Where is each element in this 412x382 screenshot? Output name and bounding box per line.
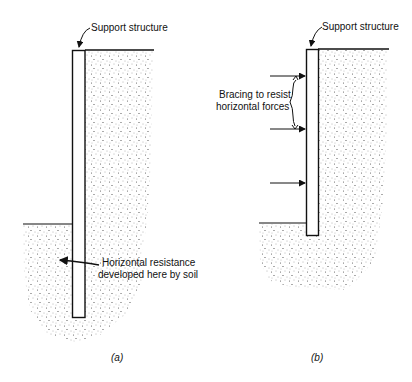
caption-b: (b) [311,352,323,363]
support-structure-label-a: Support structure [91,22,168,34]
brace-tip-top [293,76,298,80]
panel-b [259,27,389,290]
pile-a [73,51,86,318]
retained-soil-b [318,50,388,282]
diagram-canvas [0,0,412,382]
support-leader-b [311,27,322,46]
panel-a [23,28,154,342]
resistance-label-line1: Horizontal resistance [102,257,195,269]
resistance-label-line2: developed here by soil [98,269,198,281]
bracing-label-line2: horizontal forces [216,101,289,113]
support-structure-label-b: Support structure [322,21,399,33]
support-leader-a [79,28,90,47]
bracing-label-line1: Bracing to resist [219,89,291,101]
caption-a: (a) [111,352,123,363]
pile-b [307,50,319,236]
bracing-brace-icon [290,80,296,126]
